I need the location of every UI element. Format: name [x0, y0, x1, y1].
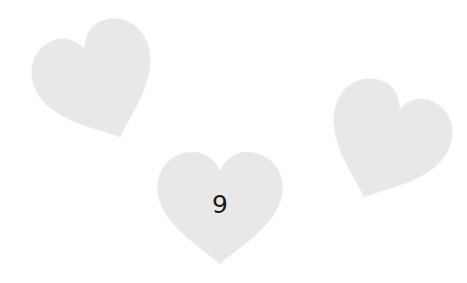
heart-card-right[interactable]: [302, 64, 467, 226]
heart-icon: [16, 4, 182, 166]
heart-icon: [302, 64, 467, 226]
heart-card-left[interactable]: [16, 4, 182, 166]
heart-icon: [153, 150, 287, 268]
heart-card-center[interactable]: 9: [153, 150, 287, 268]
game-board: 9: [0, 0, 467, 283]
